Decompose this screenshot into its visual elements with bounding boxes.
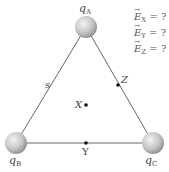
field-unknown: = ? <box>146 43 166 54</box>
vector-arrow-icon: → <box>134 39 140 46</box>
charge-b-sphere <box>5 132 27 154</box>
charge-b-symbol: q <box>9 154 16 167</box>
charge-a-symbol: q <box>79 2 86 15</box>
point-y-dot <box>84 141 88 145</box>
triangle-sides <box>16 27 153 143</box>
field-unknown: = ? <box>146 11 166 22</box>
point-z-label: Z <box>121 75 128 85</box>
side-length-label: s <box>45 80 50 90</box>
charge-c-sphere <box>142 132 164 154</box>
charge-a-sphere <box>75 16 97 38</box>
charge-c-label: qC <box>145 155 157 168</box>
charge-c-subscript: C <box>152 160 157 168</box>
vector-arrow-icon: → <box>134 7 140 14</box>
point-y-label: Y <box>82 147 89 157</box>
charge-c-symbol: q <box>145 154 152 167</box>
charge-b-label: qB <box>9 155 21 168</box>
charge-a-subscript: A <box>86 8 91 16</box>
charge-b-subscript: B <box>16 160 21 168</box>
question-ez: →EZ = ? <box>134 44 166 56</box>
vector-arrow-icon: → <box>134 23 140 30</box>
point-z-dot <box>116 83 120 87</box>
point-x-label: X <box>75 100 82 110</box>
charge-a-label: qA <box>79 3 91 16</box>
point-x-dot <box>84 103 88 107</box>
field-unknown: = ? <box>146 27 166 38</box>
